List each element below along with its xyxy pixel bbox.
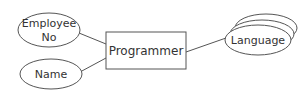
attribute-employee-no: Employee No [18,13,80,47]
entity-label: Programmer [109,44,184,58]
attribute-label: Name [35,68,68,81]
connector-employee-no-programmer [79,33,106,44]
entity-programmer: Programmer [106,32,186,69]
connector-name-programmer [80,58,106,72]
attribute-label-line2: No [42,31,57,44]
attribute-language: Language [225,14,297,55]
connector-programmer-language [186,38,226,52]
attribute-name: Name [20,59,82,89]
er-diagram: Employee No Name Programmer Language [0,0,300,93]
attribute-label-line1: Employee [22,17,77,30]
attribute-label: Language [231,34,286,47]
